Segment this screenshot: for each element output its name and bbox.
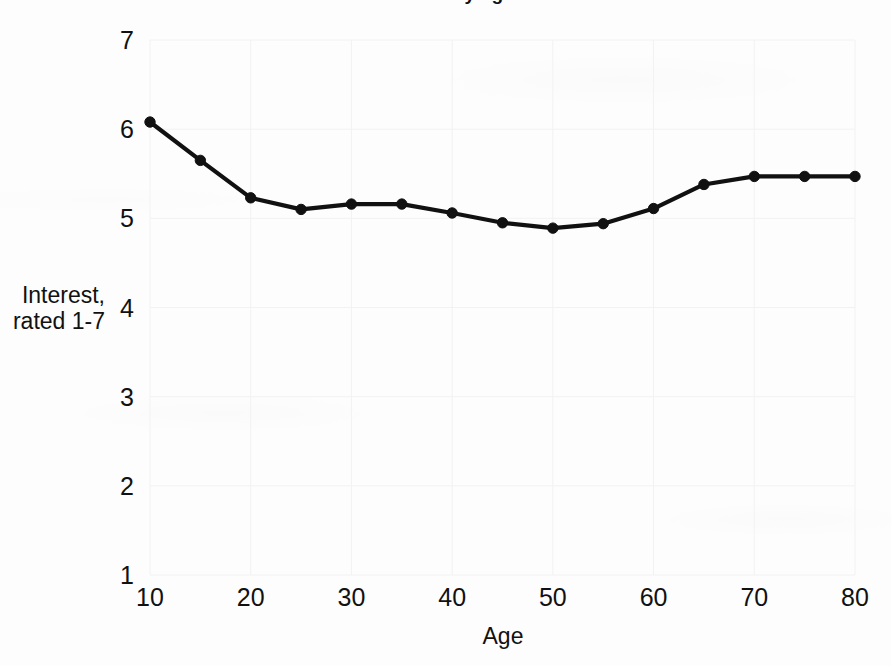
data-point-marker (397, 199, 407, 209)
y-axis-tick-label: 6 (120, 115, 134, 143)
y-axis-tick-label: 4 (120, 294, 134, 322)
chart-page: Interest by age 7654321 1020304050607080… (0, 0, 891, 666)
y-axis-tick-labels: 7654321 (120, 26, 134, 589)
y-axis-tick-label: 1 (120, 561, 134, 589)
y-axis-tick-label: 5 (120, 204, 134, 232)
data-point-marker (799, 171, 809, 181)
x-axis-tick-label: 20 (237, 583, 265, 611)
data-point-marker (699, 179, 709, 189)
y-axis-tick-label: 2 (120, 472, 134, 500)
data-point-marker (598, 218, 608, 228)
data-point-marker (648, 203, 658, 213)
x-axis-tick-label: 50 (539, 583, 567, 611)
data-point-marker (497, 218, 507, 228)
line-chart: 7654321 1020304050607080 Interest, rated… (0, 0, 891, 666)
data-point-marker (749, 171, 759, 181)
gridlines-group (150, 40, 855, 575)
y-axis-title-line1: Interest, (22, 282, 105, 308)
y-axis-tick-label: 3 (120, 383, 134, 411)
x-axis-tick-label: 10 (136, 583, 164, 611)
data-point-marker (850, 171, 860, 181)
y-axis-tick-label: 7 (120, 26, 134, 54)
x-axis-tick-label: 60 (640, 583, 668, 611)
data-point-marker (246, 193, 256, 203)
x-axis-title: Age (483, 623, 524, 649)
y-axis-title-line2: rated 1-7 (13, 308, 105, 334)
data-point-marker (346, 199, 356, 209)
data-point-marker (145, 117, 155, 127)
data-point-marker (195, 155, 205, 165)
data-points-group (145, 117, 860, 234)
x-axis-tick-labels: 1020304050607080 (136, 583, 869, 611)
x-axis-tick-label: 70 (740, 583, 768, 611)
data-point-marker (447, 208, 457, 218)
data-point-marker (548, 223, 558, 233)
x-axis-tick-label: 40 (438, 583, 466, 611)
data-point-marker (296, 204, 306, 214)
x-axis-tick-label: 80 (841, 583, 869, 611)
x-axis-tick-label: 30 (338, 583, 366, 611)
